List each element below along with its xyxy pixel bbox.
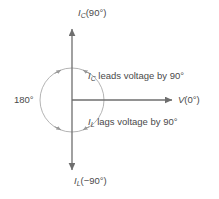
arc-arrow-lagging-left <box>55 127 62 130</box>
axis-label-v-angle: (0°) <box>184 94 199 105</box>
note-il-lags-text: lags voltage by 90° <box>95 116 178 127</box>
axis-label-il-angle: (−90°) <box>81 175 107 186</box>
arc-arrow-leading-left <box>55 70 62 73</box>
axis-label-v: V(0°) <box>178 95 200 105</box>
axis-label-180: 180° <box>14 95 34 105</box>
phasor-diagram: IC(90°) IL(−90°) V(0°) 180° IC leads vol… <box>0 0 219 199</box>
note-ic-leads-text: leads voltage by 90° <box>96 70 184 81</box>
axis-label-il: IL(−90°) <box>74 176 107 187</box>
axis-label-ic-angle: (90°) <box>86 7 107 18</box>
note-ic-leads: IC leads voltage by 90° <box>88 71 184 82</box>
axis-label-ic: IC(90°) <box>78 8 106 19</box>
note-il-lags: IL lags voltage by 90° <box>88 117 178 128</box>
